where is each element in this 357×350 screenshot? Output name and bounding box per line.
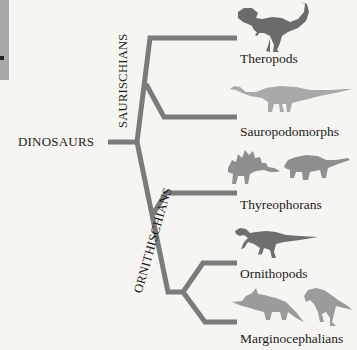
triceratops-icon	[232, 288, 304, 322]
branch-ornithopods	[183, 263, 237, 292]
iguanodon-icon	[235, 228, 318, 258]
branch-marginocephalians	[183, 292, 237, 322]
sauropod-icon	[230, 86, 352, 112]
leaf-label-sauropodomorphs: Sauropodomorphs	[240, 125, 339, 139]
pachycephalosaur-icon	[304, 288, 352, 326]
stegosaurus-icon	[228, 150, 280, 184]
clade-label-saurischians: SAURISCHIANS	[117, 33, 130, 128]
t-rex-icon	[238, 2, 309, 52]
leaf-label-ornithopods: Ornithopods	[240, 267, 308, 281]
branch-sauropodomorphs	[146, 84, 237, 117]
leaf-label-theropods: Theropods	[240, 52, 298, 66]
leaf-label-thyreophorans: Thyreophorans	[240, 198, 322, 212]
leaf-label-marginocephalians: Marginocephalians	[240, 332, 343, 346]
root-label-dinosaurs: DINOSAURS	[18, 135, 94, 148]
ankylosaurus-icon	[284, 155, 350, 180]
phylogenetic-tree	[0, 0, 357, 350]
